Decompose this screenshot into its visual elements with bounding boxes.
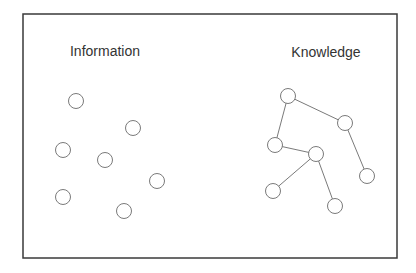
information-node <box>56 190 71 205</box>
knowledge-node <box>360 169 375 184</box>
knowledge-node <box>266 184 281 199</box>
knowledge-edge <box>316 154 335 206</box>
information-node <box>69 94 84 109</box>
knowledge-edge <box>288 96 345 123</box>
information-node <box>117 204 132 219</box>
knowledge-edge <box>345 123 367 176</box>
knowledge-edge <box>273 154 316 191</box>
knowledge-node <box>281 89 296 104</box>
knowledge-nodes <box>266 89 375 214</box>
knowledge-node <box>309 147 324 162</box>
knowledge-node <box>268 138 283 153</box>
knowledge-node <box>338 116 353 131</box>
information-vs-knowledge-diagram: Information Knowledge <box>0 0 416 273</box>
information-node <box>150 174 165 189</box>
knowledge-node <box>328 199 343 214</box>
information-node <box>98 153 113 168</box>
information-nodes <box>56 94 165 219</box>
information-node <box>56 143 71 158</box>
information-label: Information <box>70 43 140 59</box>
knowledge-label: Knowledge <box>291 44 360 60</box>
information-node <box>126 121 141 136</box>
